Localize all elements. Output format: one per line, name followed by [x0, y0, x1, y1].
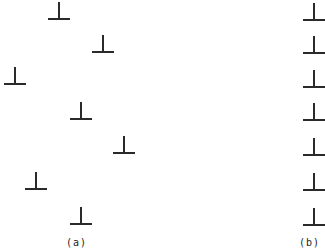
panel-a-label: (a)	[66, 237, 87, 248]
dislocation-figure: (a) (b)	[0, 0, 325, 252]
panel-b-label: (b)	[299, 237, 320, 248]
